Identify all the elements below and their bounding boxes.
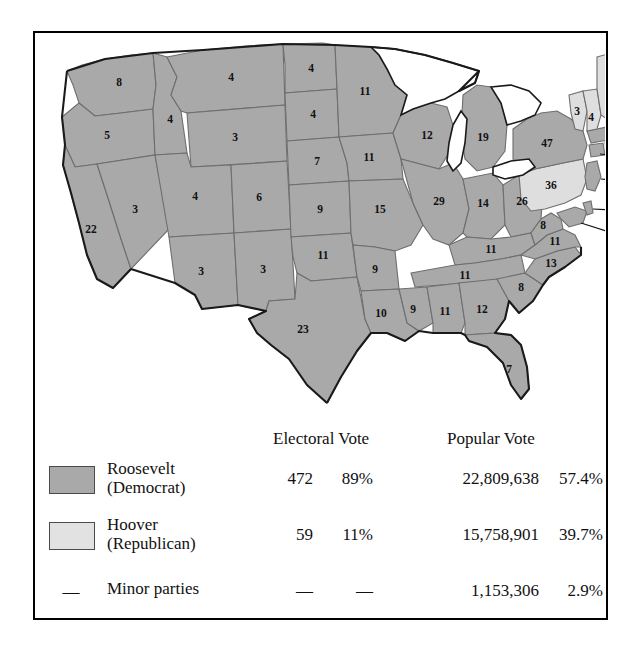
legend-label-minor-parties: Minor parties (107, 579, 199, 598)
label-sc: 8 (518, 281, 524, 293)
label-mn: 11 (360, 85, 371, 97)
label-wa: 8 (116, 76, 122, 88)
label-sd: 4 (310, 108, 316, 120)
label-oh: 26 (516, 195, 528, 207)
label-ca: 22 (85, 223, 97, 235)
label-in: 14 (477, 197, 489, 209)
legend-label-roosevelt: Roosevelt (Democrat) (107, 459, 185, 497)
roosevelt-electoral-votes: 472 (267, 469, 313, 489)
label-mo: 15 (374, 203, 386, 215)
label-ok: 11 (318, 249, 329, 261)
label-al: 11 (440, 305, 451, 317)
figure-frame: 8 5 22 3 4 4 3 4 6 3 3 4 4 7 9 11 23 11 … (33, 31, 608, 620)
label-ny: 47 (541, 137, 553, 149)
column-header-popular-vote: Popular Vote (447, 429, 535, 449)
hoover-electoral-pct: 11% (321, 525, 373, 545)
legend-swatch-republican (49, 522, 95, 550)
candidate-name-roosevelt: Roosevelt (107, 459, 185, 478)
label-ar: 9 (372, 263, 378, 275)
roosevelt-popular-votes: 22,809,638 (427, 469, 539, 489)
label-az: 3 (198, 265, 204, 277)
hoover-popular-pct: 39.7% (547, 525, 603, 545)
minor-popular-pct: 2.9% (547, 581, 603, 601)
label-wy: 3 (232, 131, 238, 143)
state-ct[interactable] (589, 143, 605, 157)
label-pa: 36 (545, 179, 557, 191)
candidate-party-republican: (Republican) (107, 534, 196, 553)
candidate-name-hoover: Hoover (107, 515, 196, 534)
label-fl: 7 (506, 363, 512, 375)
state-nj[interactable] (585, 161, 601, 191)
label-ky: 11 (486, 243, 497, 255)
roosevelt-popular-pct: 57.4% (547, 469, 603, 489)
label-ia: 11 (364, 151, 375, 163)
legend-label-hoover: Hoover (Republican) (107, 515, 196, 553)
leader-line-nj (601, 179, 605, 183)
legend-swatch-minor-parties: — (59, 583, 83, 600)
label-ks: 9 (317, 203, 323, 215)
leader-line-de (593, 209, 605, 211)
label-nd: 4 (308, 62, 314, 74)
legend-row-hoover: Hoover (Republican) 59 11% 15,758,901 39… (35, 517, 605, 563)
label-ms: 9 (410, 303, 416, 315)
label-wi: 12 (421, 129, 433, 141)
label-nh: 4 (588, 111, 594, 123)
label-ne: 7 (314, 155, 320, 167)
label-la: 10 (375, 307, 387, 319)
candidate-party-democrat: (Democrat) (107, 478, 185, 497)
column-header-electoral-vote: Electoral Vote (273, 429, 369, 449)
label-il: 29 (433, 195, 445, 207)
election-map: 8 5 22 3 4 4 3 4 6 3 3 4 4 7 9 11 23 11 … (35, 33, 605, 423)
hoover-popular-votes: 15,758,901 (427, 525, 539, 545)
label-mt: 4 (228, 71, 234, 83)
label-or: 5 (104, 129, 110, 141)
map-legend: Electoral Vote Popular Vote Roosevelt (D… (35, 425, 605, 619)
hoover-electoral-votes: 59 (267, 525, 313, 545)
legend-swatch-democrat (49, 466, 95, 494)
label-nm: 3 (260, 263, 266, 275)
us-map-svg: 8 5 22 3 4 4 3 4 6 3 3 4 4 7 9 11 23 11 … (35, 33, 605, 423)
legend-row-roosevelt: Roosevelt (Democrat) 472 89% 22,809,638 … (35, 461, 605, 507)
state-mt[interactable] (167, 44, 285, 113)
label-nv: 3 (132, 203, 138, 215)
label-vt: 3 (574, 105, 580, 117)
legend-row-minor-parties: — Minor parties — — 1,153,306 2.9% (35, 573, 605, 619)
label-co: 6 (256, 191, 262, 203)
label-tx: 23 (297, 323, 309, 335)
label-tn: 11 (460, 269, 471, 281)
label-ut: 4 (192, 190, 198, 202)
label-mi: 19 (477, 131, 489, 143)
label-nc: 13 (545, 257, 557, 269)
candidate-name-minor-parties: Minor parties (107, 579, 199, 598)
label-wv: 8 (540, 219, 546, 231)
leader-line-md (581, 223, 605, 239)
label-va: 11 (550, 235, 561, 247)
minor-electoral-pct: — (321, 581, 373, 601)
label-id: 4 (167, 113, 173, 125)
minor-electoral-votes: — (267, 581, 313, 601)
minor-popular-votes: 1,153,306 (427, 581, 539, 601)
label-ga: 12 (476, 303, 488, 315)
roosevelt-electoral-pct: 89% (321, 469, 373, 489)
